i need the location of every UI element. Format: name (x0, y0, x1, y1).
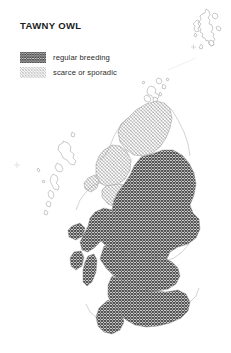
neatline-fragment (168, 58, 196, 70)
area-wester-ross-band (96, 145, 131, 187)
area-kintyre (83, 254, 97, 286)
legend-label-scarce-or-sporadic: scarce or sporadic (53, 67, 117, 78)
area-islay-jura (70, 251, 84, 270)
st-kilda-marker (14, 162, 20, 168)
distribution-map-page: TAWNY OWL regular breeding scarce or spo… (0, 0, 231, 353)
legend-item-scarce-or-sporadic: scarce or sporadic (20, 67, 160, 78)
area-north-highlands (118, 101, 172, 156)
legend-item-regular-breeding: regular breeding (20, 52, 160, 63)
shetland-cross-marker (191, 45, 196, 50)
area-skye (84, 175, 99, 192)
area-outer-hebrides (37, 132, 76, 215)
legend-swatch-regular-breeding (20, 52, 46, 63)
map-title: TAWNY OWL (20, 20, 81, 31)
legend-swatch-scarce-or-sporadic (20, 67, 46, 78)
area-shetland-inset (193, 9, 221, 49)
legend-label-regular-breeding: regular breeding (53, 52, 110, 63)
legend: regular breeding scarce or sporadic (20, 52, 160, 82)
